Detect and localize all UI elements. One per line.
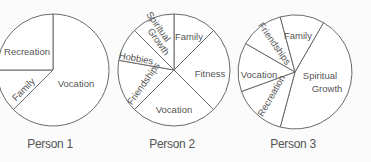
slice-label: Fitness <box>195 68 226 79</box>
pie-slice-recreation <box>0 14 53 70</box>
caption-person-3: Person 3 <box>270 137 316 151</box>
caption-person-1: Person 1 <box>27 137 73 151</box>
pie-chart-2: FamilyFitnessVocationFriendshipsHobbiesS… <box>118 9 230 126</box>
pie-charts-figure: VocationFamilyRecreationFamilyFitnessVoc… <box>0 0 371 162</box>
slice-label: Vocation <box>156 104 192 115</box>
slice-label: Family <box>284 30 312 41</box>
slice-label: Family <box>175 31 203 42</box>
slice-label: Vocation <box>241 69 277 80</box>
caption-person-2: Person 2 <box>149 137 195 151</box>
slice-label: Recreation <box>4 46 50 57</box>
slice-label: Spiritual <box>303 70 337 81</box>
slice-label: Growth <box>312 83 343 94</box>
pie-chart-3: SpiritualGrowthRecreationVocationFriends… <box>238 15 352 129</box>
pie-chart-1: VocationFamilyRecreation <box>0 14 109 126</box>
slice-label: Vocation <box>58 78 94 89</box>
